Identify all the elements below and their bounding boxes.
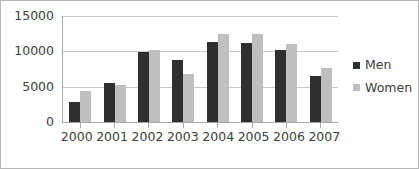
bar-group-2002	[132, 16, 166, 122]
bar-men-2003	[172, 60, 183, 122]
x-tick-label-2005: 2005	[238, 131, 270, 144]
x-tick-2002	[148, 123, 149, 128]
x-tick-2006	[286, 123, 287, 128]
x-tick-label-2000: 2000	[61, 131, 93, 144]
x-axis-tick-labels: 20002001200220032004200520062007	[59, 131, 342, 144]
bar-men-2007	[310, 76, 321, 122]
x-tick-label-2007: 2007	[308, 131, 340, 144]
bar-group-2004	[201, 16, 235, 122]
bar-men-2005	[241, 43, 252, 122]
bar-women-2002	[149, 50, 160, 122]
bar-women-2005	[252, 34, 263, 122]
bar-group-2005	[235, 16, 269, 122]
legend-swatch-women-icon	[353, 84, 360, 91]
x-tick-2000	[80, 123, 81, 128]
x-tick-label-2003: 2003	[167, 131, 199, 144]
chart-legend: Men Women	[353, 59, 412, 94]
bar-women-2003	[183, 74, 194, 122]
legend-label-men: Men	[365, 59, 391, 72]
x-tick-label-2006: 2006	[273, 131, 305, 144]
x-tick-label-2002: 2002	[132, 131, 164, 144]
x-tick-2005	[252, 123, 253, 128]
legend-label-women: Women	[365, 82, 412, 95]
bar-women-2006	[286, 44, 297, 122]
x-tick-2007	[320, 123, 321, 128]
legend-item-men[interactable]: Men	[353, 59, 412, 72]
bar-group-2006	[269, 16, 303, 122]
bars-layer	[63, 16, 338, 122]
bar-group-2003	[166, 16, 200, 122]
y-tick-label-10000: 10000	[0, 45, 54, 58]
legend-swatch-men-icon	[353, 62, 360, 69]
x-axis-ticks	[63, 123, 338, 128]
bar-group-2000	[63, 16, 97, 122]
bar-women-2004	[218, 34, 229, 122]
x-tick-label-2004: 2004	[202, 131, 234, 144]
y-tick-label-15000: 15000	[0, 10, 54, 23]
bar-men-2001	[104, 83, 115, 122]
bar-group-2007	[304, 16, 338, 122]
x-tick-2001	[114, 123, 115, 128]
bar-men-2002	[138, 52, 149, 122]
bar-men-2004	[207, 42, 218, 122]
y-tick-label-5000: 5000	[0, 81, 54, 94]
bar-men-2006	[275, 50, 286, 122]
bar-women-2000	[80, 91, 91, 122]
y-tick-label-0: 0	[0, 116, 54, 129]
x-tick-label-2001: 2001	[96, 131, 128, 144]
bar-group-2001	[98, 16, 132, 122]
bar-men-2000	[69, 102, 80, 122]
x-tick-2003	[183, 123, 184, 128]
bar-chart-figure: 15000 10000 5000 0 200020012002200320042…	[0, 0, 419, 169]
bar-women-2007	[321, 68, 332, 122]
bar-women-2001	[115, 85, 126, 122]
legend-item-women[interactable]: Women	[353, 82, 412, 95]
x-tick-2004	[217, 123, 218, 128]
